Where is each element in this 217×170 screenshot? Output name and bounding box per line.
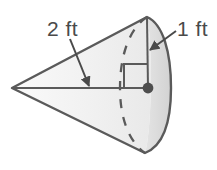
base-radius-line — [147, 18, 148, 88]
radius-label: 1 ft — [177, 18, 208, 39]
cone-diagram: 2 ft 1 ft — [0, 0, 217, 170]
slant-height-label: 2 ft — [47, 18, 78, 39]
base-center-dot — [143, 83, 154, 94]
